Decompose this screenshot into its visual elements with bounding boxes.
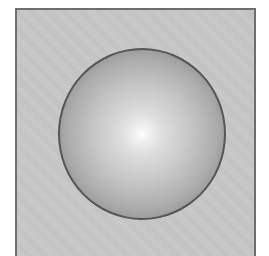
shaded-sphere bbox=[58, 48, 226, 220]
figure-canvas bbox=[0, 0, 269, 256]
